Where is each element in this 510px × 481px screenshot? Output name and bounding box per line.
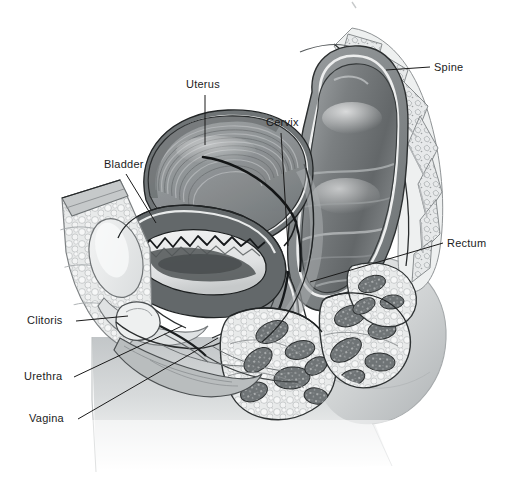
label-vagina: Vagina	[29, 413, 64, 424]
label-clitoris: Clitoris	[27, 315, 63, 326]
label-rectum: Rectum	[447, 238, 486, 249]
label-cervix: Cervix	[266, 117, 299, 128]
label-uterus: Uterus	[186, 79, 220, 90]
label-urethra: Urethra	[24, 371, 62, 382]
label-bladder: Bladder	[104, 159, 144, 170]
label-spine: Spine	[434, 62, 463, 73]
anatomy-figure: Uterus Cervix Bladder Spine Rectum Clito…	[0, 0, 510, 481]
